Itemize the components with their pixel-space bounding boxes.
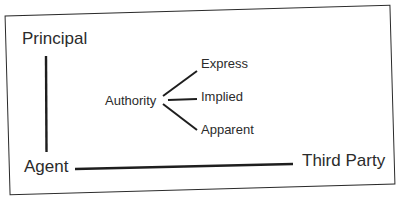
express-label: Express: [201, 57, 248, 70]
authority-express-line: [163, 71, 197, 96]
agency-diagram: Principal Agent Third Party Authority Ex…: [0, 0, 400, 202]
agent-thirdparty-line: [75, 164, 293, 169]
implied-label: Implied: [201, 90, 243, 103]
principal-agent-line: [46, 56, 47, 152]
principal-label: Principal: [22, 30, 87, 47]
apparent-label: Apparent: [201, 123, 254, 136]
authority-implied-line: [168, 99, 197, 100]
authority-apparent-line: [163, 104, 197, 130]
authority-label: Authority: [105, 94, 156, 107]
third-party-label: Third Party: [302, 152, 385, 169]
agent-label: Agent: [24, 158, 68, 175]
